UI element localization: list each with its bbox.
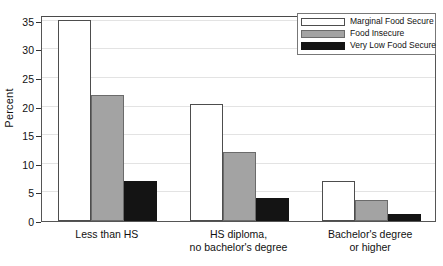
y-tick-label: 0 <box>14 217 34 227</box>
y-tick-label: 30 <box>14 45 34 55</box>
bar <box>58 20 91 221</box>
y-tick-mark <box>36 22 41 23</box>
bar <box>124 181 157 221</box>
y-tick-label: 15 <box>14 131 34 141</box>
legend-item: Very Low Food Secure <box>301 40 432 51</box>
bar-chart: Percent 05101520253035 Marginal Food Sec… <box>0 0 443 266</box>
y-tick-mark <box>36 136 41 137</box>
x-group-label-line: Bachelor's degree <box>328 228 412 240</box>
legend-item: Marginal Food Secure <box>301 16 432 27</box>
x-group-label: Less than HS <box>41 228 173 241</box>
legend-label: Marginal Food Secure <box>350 17 434 26</box>
y-tick-mark <box>36 193 41 194</box>
x-group-label-line: or higher <box>304 241 436 254</box>
legend-item: Food Insecure <box>301 28 432 39</box>
y-tick-label: 35 <box>14 17 34 27</box>
y-tick-mark <box>36 165 41 166</box>
legend-label: Food Insecure <box>350 29 404 38</box>
y-tick-mark <box>36 50 41 51</box>
x-group-label-line: no bachelor's degree <box>173 241 305 254</box>
x-axis-group-labels: Less than HSHS diploma,no bachelor's deg… <box>41 228 436 266</box>
x-group-label: Bachelor's degreeor higher <box>304 228 436 254</box>
legend-swatch <box>301 30 345 38</box>
bar <box>91 95 124 221</box>
bar <box>190 104 223 221</box>
chart-legend: Marginal Food SecureFood InsecureVery Lo… <box>297 13 436 55</box>
y-tick-mark <box>36 108 41 109</box>
legend-swatch <box>301 18 345 26</box>
y-tick-label: 25 <box>14 74 34 84</box>
legend-label: Very Low Food Secure <box>350 41 436 50</box>
y-tick-mark <box>36 222 41 223</box>
y-tick-label: 5 <box>14 188 34 198</box>
y-tick-label: 20 <box>14 103 34 113</box>
y-axis-tick-labels: 05101520253035 <box>12 0 34 266</box>
x-group-label-line: Less than HS <box>75 228 138 240</box>
x-group-label: HS diploma,no bachelor's degree <box>173 228 305 254</box>
x-group-label-line: HS diploma, <box>210 228 267 240</box>
y-tick-mark <box>36 79 41 80</box>
bar <box>223 152 256 221</box>
bar <box>388 214 421 221</box>
y-tick-label: 10 <box>14 160 34 170</box>
bar <box>355 200 388 221</box>
bar <box>256 198 289 221</box>
legend-swatch <box>301 42 345 50</box>
bar <box>322 181 355 221</box>
